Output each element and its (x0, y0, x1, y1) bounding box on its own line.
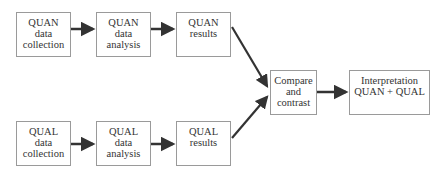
node-label-line: and (286, 86, 301, 97)
node-label-line: analysis (107, 148, 141, 159)
node-label-line: QUAN (28, 17, 58, 28)
node-label-line: results (190, 28, 217, 39)
node-label-line: data (115, 28, 133, 39)
node-label-line: collection (23, 39, 64, 50)
node-label-line: Compare (274, 75, 313, 86)
node-label-line: data (35, 137, 53, 148)
node-label-line: QUAL (29, 126, 58, 137)
node-label-line: results (190, 137, 217, 148)
node-label-line: QUAN (188, 17, 218, 28)
node-label-line: data (115, 137, 133, 148)
node-label-line: QUAN (108, 17, 138, 28)
node-compare-and-contrast: Compare and contrast (270, 70, 317, 115)
node-qual-data-collection: QUAL data collection (16, 121, 71, 166)
node-quan-results: QUAN results (176, 12, 231, 57)
node-interpretation: Interpretation QUAN + QUAL (349, 70, 430, 115)
node-label-line: QUAN + QUAL (354, 86, 425, 97)
node-label-line: Interpretation (361, 75, 418, 86)
node-qual-data-analysis: QUAL data analysis (96, 121, 151, 166)
arrow-qual-results-to-compare (232, 97, 267, 138)
arrow-quan-results-to-compare (232, 27, 267, 86)
node-label-line: QUAL (109, 126, 138, 137)
node-qual-results: QUAL results (176, 121, 231, 166)
node-quan-data-analysis: QUAN data analysis (96, 12, 151, 57)
node-label-line: collection (23, 148, 64, 159)
node-label-line: QUAL (189, 126, 218, 137)
node-quan-data-collection: QUAN data collection (16, 12, 71, 57)
node-label-line: contrast (277, 97, 310, 108)
node-label-line: data (35, 28, 53, 39)
node-label-line: analysis (107, 39, 141, 50)
